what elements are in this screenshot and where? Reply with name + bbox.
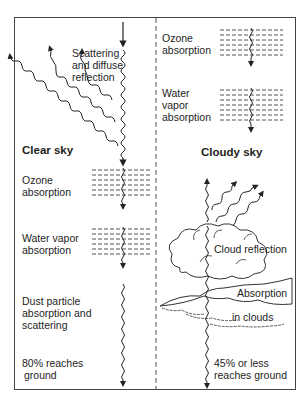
label-line: absorption — [162, 44, 211, 56]
label-line: absorption and — [22, 307, 91, 319]
cloud-reflect-up — [206, 181, 209, 222]
label-line: Ozone — [162, 32, 211, 44]
label-line: 80% reaches — [22, 357, 83, 369]
label-line: 45% or less — [214, 357, 287, 369]
label-line: Ozone — [22, 174, 71, 186]
label-line: absorption — [22, 186, 71, 198]
cloudy-ozone-label: Ozone absorption — [162, 32, 211, 56]
in-clouds-label: in clouds — [232, 311, 273, 323]
label-line: scattering — [22, 319, 91, 331]
scattering-label: Scattering and diffuse reflection — [72, 47, 123, 83]
clear-dust-label: Dust particle absorption and scattering — [22, 295, 91, 331]
label-line: reaches ground — [214, 369, 287, 381]
clear-water-label: Water vapor absorption — [22, 232, 79, 256]
label-line: ground — [22, 369, 83, 381]
cloudy-water-label: Water vapor absorption — [162, 87, 211, 123]
cloudy-result-label: 45% or less reaches ground — [214, 357, 287, 381]
cloudy-sky-heading: Cloudy sky — [201, 146, 262, 158]
label-line: Dust particle — [22, 295, 91, 307]
scattering-label-line: Scattering — [72, 47, 123, 59]
scattering-label-line: and diffuse — [72, 59, 123, 71]
clear-ground-wave — [122, 284, 125, 384]
clear-ozone-label: Ozone absorption — [22, 174, 71, 198]
scattering-label-line: reflection — [72, 71, 123, 83]
label-line: Water vapor — [22, 232, 79, 244]
label-line: Water — [162, 87, 211, 99]
absorption-label: Absorption — [237, 287, 287, 299]
clear-result-label: 80% reaches ground — [22, 357, 83, 381]
cloud-reflect-1 — [212, 183, 235, 210]
diagram-canvas — [0, 0, 306, 401]
clear-sky-heading: Clear sky — [22, 144, 73, 156]
label-line: absorption — [22, 244, 79, 256]
label-line: vapor — [162, 99, 211, 111]
cloud-reflection-label: Cloud reflection — [214, 243, 287, 255]
label-line: absorption — [162, 111, 211, 123]
